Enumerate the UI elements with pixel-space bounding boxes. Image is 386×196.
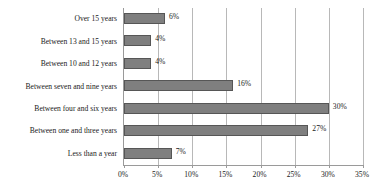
bar-data-label: 27% xyxy=(312,123,326,134)
plot-area: 6%4%4%16%30%27%7% xyxy=(123,8,363,166)
bar-row: 30% xyxy=(124,98,363,120)
x-tick-label: 0% xyxy=(118,170,128,180)
bar-row: 4% xyxy=(124,53,363,75)
bar-data-label: 30% xyxy=(333,101,347,112)
x-axis-tick-mark xyxy=(363,165,364,168)
x-axis-tick-mark xyxy=(192,165,193,168)
bar xyxy=(124,103,329,114)
category-label: Between four and six years xyxy=(0,104,117,113)
bar-data-label: 6% xyxy=(169,11,179,22)
bar-data-label: 7% xyxy=(176,146,186,157)
bar xyxy=(124,58,151,69)
bar xyxy=(124,13,165,24)
x-axis-tick-mark xyxy=(226,165,227,168)
x-tick-label: 20% xyxy=(253,170,267,180)
bar-row: 16% xyxy=(124,75,363,97)
category-label: Between one and three years xyxy=(0,126,117,135)
bar-row: 4% xyxy=(124,30,363,52)
category-label: Between 10 and 12 years xyxy=(0,59,117,68)
bar-data-label: 4% xyxy=(155,33,165,44)
x-tick-label: 25% xyxy=(287,170,301,180)
x-axis-tick-labels: 0%5%10%15%20%25%30%35% xyxy=(123,170,362,184)
bar xyxy=(124,125,308,136)
bar-row: 7% xyxy=(124,143,363,165)
x-tick-label: 15% xyxy=(218,170,232,180)
x-axis-tick-mark xyxy=(261,165,262,168)
category-label: Between 13 and 15 years xyxy=(0,37,117,46)
category-label: Less than a year xyxy=(0,149,117,158)
x-tick-label: 10% xyxy=(184,170,198,180)
bar-data-label: 4% xyxy=(155,56,165,67)
bar-chart: Over 15 yearsBetween 13 and 15 yearsBetw… xyxy=(0,0,386,196)
bar-row: 27% xyxy=(124,120,363,142)
x-axis-tick-mark xyxy=(124,165,125,168)
x-axis-tick-mark xyxy=(158,165,159,168)
bar xyxy=(124,148,172,159)
x-axis-tick-mark xyxy=(329,165,330,168)
bar xyxy=(124,35,151,46)
x-tick-label: 35% xyxy=(355,170,369,180)
bar-row: 6% xyxy=(124,8,363,30)
bar-data-label: 16% xyxy=(237,78,251,89)
bar xyxy=(124,80,233,91)
category-label: Between seven and nine years xyxy=(0,82,117,91)
gridline xyxy=(363,8,364,165)
category-label: Over 15 years xyxy=(0,14,117,23)
x-tick-label: 5% xyxy=(152,170,162,180)
category-axis-labels: Over 15 yearsBetween 13 and 15 yearsBetw… xyxy=(0,8,120,165)
x-axis-tick-mark xyxy=(295,165,296,168)
x-tick-label: 30% xyxy=(321,170,335,180)
